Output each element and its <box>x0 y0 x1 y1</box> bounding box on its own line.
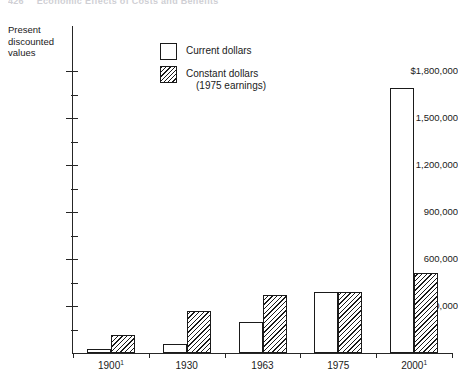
y-tick-750000 <box>71 236 78 237</box>
legend-item-1: Current dollars <box>160 43 266 60</box>
y-axis-line <box>72 26 73 354</box>
x-tick-2 <box>225 353 226 358</box>
y-axis-caption: Present discounted values <box>8 24 70 59</box>
x-category-text-1963: 1963 <box>251 360 273 371</box>
y-axis-caption-line-2: discounted <box>8 36 70 48</box>
y-tick-1500000 <box>66 118 78 119</box>
legend-item-2: Constant dollars(1975 earnings) <box>160 66 266 92</box>
y-axis-caption-line-1: Present <box>8 24 70 36</box>
x-category-label-2000: 20001 <box>376 360 452 371</box>
legend-label-1: Current dollars <box>186 43 252 57</box>
x-axis-line <box>72 353 452 354</box>
x-category-label-1900: 19001 <box>73 360 149 371</box>
legend-swatch-open-icon <box>160 43 177 60</box>
y-tick-1350000 <box>71 142 78 143</box>
x-category-label-1975: 1975 <box>300 360 376 371</box>
x-tick-5 <box>452 353 453 358</box>
legend-label-main-2: Constant dollars <box>186 68 258 79</box>
x-tick-3 <box>300 353 301 358</box>
x-tick-4 <box>376 353 377 358</box>
y-axis-caption-line-3: values <box>8 47 70 59</box>
bar-2000-constant <box>414 273 438 353</box>
legend-swatch-hatched-icon <box>160 66 177 83</box>
y-tick-900000 <box>66 212 78 213</box>
bar-1930-constant <box>187 311 211 353</box>
y-tick-label-1800000: $1,800,000 <box>396 66 458 76</box>
legend-label-sub-2: (1975 earnings) <box>186 80 266 92</box>
legend-label-main-1: Current dollars <box>186 45 252 56</box>
bar-1963-current <box>239 322 263 353</box>
x-category-text-1900: 1900 <box>98 360 120 371</box>
bar-1900-constant <box>111 335 135 353</box>
y-tick-1050000 <box>71 189 78 190</box>
bar-1963-constant <box>263 295 287 353</box>
x-category-label-1930: 1930 <box>149 360 225 371</box>
bar-2000-current <box>390 88 414 353</box>
x-category-text-1975: 1975 <box>327 360 349 371</box>
bar-1975-current <box>314 292 338 353</box>
y-tick-150000 <box>71 330 78 331</box>
y-tick-450000 <box>71 283 78 284</box>
x-category-text-2000: 2000 <box>401 360 423 371</box>
y-tick-1650000 <box>71 95 78 96</box>
bar-1975-constant <box>338 292 362 353</box>
y-tick-600000 <box>66 259 78 260</box>
x-category-text-1930: 1930 <box>176 360 198 371</box>
x-category-footnote-1900: 1 <box>120 359 124 366</box>
x-tick-0 <box>73 353 74 358</box>
y-tick-1800000 <box>66 71 78 72</box>
x-tick-1 <box>149 353 150 358</box>
y-tick-300000 <box>66 306 78 307</box>
bar-chart-figure: Present discounted values $1,800,0001,50… <box>0 0 458 392</box>
legend-label-2: Constant dollars(1975 earnings) <box>186 66 266 92</box>
x-category-footnote-2000: 1 <box>423 359 427 366</box>
bar-1900-current <box>87 349 111 353</box>
x-category-label-1963: 1963 <box>225 360 301 371</box>
bar-1930-current <box>163 344 187 353</box>
y-tick-1200000 <box>66 165 78 166</box>
chart-legend: Current dollarsConstant dollars(1975 ear… <box>160 43 266 98</box>
